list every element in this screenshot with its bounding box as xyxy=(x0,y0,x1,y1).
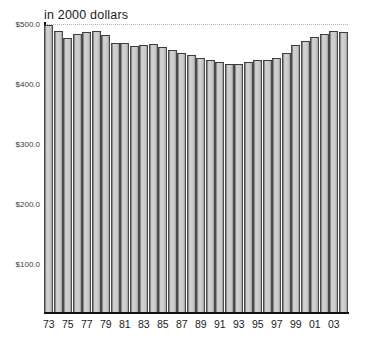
x-tick-label: 73 xyxy=(43,318,55,330)
x-axis-line xyxy=(44,312,349,314)
bar xyxy=(187,55,196,312)
bar xyxy=(234,64,243,312)
bar xyxy=(168,50,177,312)
x-tick-label: 93 xyxy=(233,318,245,330)
bar xyxy=(44,25,53,312)
bar xyxy=(139,45,148,312)
bar xyxy=(149,44,158,312)
bar xyxy=(329,31,338,312)
bar xyxy=(282,53,291,312)
bar xyxy=(339,32,348,312)
y-tick-label: $100.0 xyxy=(0,260,44,269)
bar xyxy=(82,32,91,312)
x-tick-label: 01 xyxy=(309,318,321,330)
x-tick-label: 75 xyxy=(62,318,74,330)
bar xyxy=(272,58,281,312)
y-axis-tick-labels: $500.0$400.0$300.0$200.0$100.0 xyxy=(0,0,44,350)
bar-chart: in 2000 dollars $500.0$400.0$300.0$200.0… xyxy=(0,0,366,350)
bar xyxy=(177,53,186,312)
y-tick-label: $500.0 xyxy=(0,20,44,29)
bar xyxy=(196,58,205,312)
bar xyxy=(253,60,262,312)
bar xyxy=(101,35,110,312)
plot-area xyxy=(44,24,348,312)
bar xyxy=(54,31,63,312)
x-tick-label: 97 xyxy=(271,318,283,330)
x-tick-label: 79 xyxy=(100,318,112,330)
bar xyxy=(130,46,139,312)
bar xyxy=(215,62,224,312)
bar xyxy=(263,60,272,312)
x-tick-label: 87 xyxy=(176,318,188,330)
bar xyxy=(301,41,310,312)
y-tick-label: $300.0 xyxy=(0,140,44,149)
x-tick-label: 99 xyxy=(290,318,302,330)
bar-series xyxy=(44,24,348,312)
bar xyxy=(244,62,253,312)
x-tick-label: 03 xyxy=(328,318,340,330)
bar xyxy=(291,45,300,312)
bar xyxy=(111,43,120,312)
bar xyxy=(206,60,215,312)
bar xyxy=(310,37,319,312)
bar xyxy=(225,64,234,312)
chart-title: in 2000 dollars xyxy=(44,8,128,22)
x-tick-label: 81 xyxy=(119,318,131,330)
bar xyxy=(63,38,72,312)
y-tick-label: $200.0 xyxy=(0,200,44,209)
y-tick-label: $400.0 xyxy=(0,80,44,89)
bar xyxy=(120,43,129,312)
bar xyxy=(158,47,167,312)
bar xyxy=(320,34,329,312)
bar xyxy=(73,34,82,312)
x-tick-label: 77 xyxy=(81,318,93,330)
bar xyxy=(92,31,101,312)
x-tick-label: 83 xyxy=(138,318,150,330)
x-tick-label: 85 xyxy=(157,318,169,330)
x-tick-label: 89 xyxy=(195,318,207,330)
x-tick-label: 91 xyxy=(214,318,226,330)
x-tick-label: 95 xyxy=(252,318,264,330)
